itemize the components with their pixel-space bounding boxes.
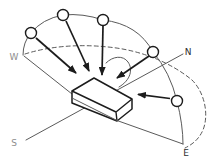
south-label: S [11,138,17,148]
sun-position-circle-1 [26,28,37,39]
sun-position-circle-5 [172,96,183,107]
east-label: E [183,148,189,158]
sun-path-diagram: W N S E [0,0,216,164]
sun-position-circle-4 [148,47,159,58]
west-label: W [10,52,19,62]
canvas-background [0,0,216,164]
north-label: N [185,47,192,57]
sun-position-circle-3 [98,15,109,26]
sun-ray-arrow-3 [102,26,103,75]
sun-position-circle-2 [58,10,69,21]
